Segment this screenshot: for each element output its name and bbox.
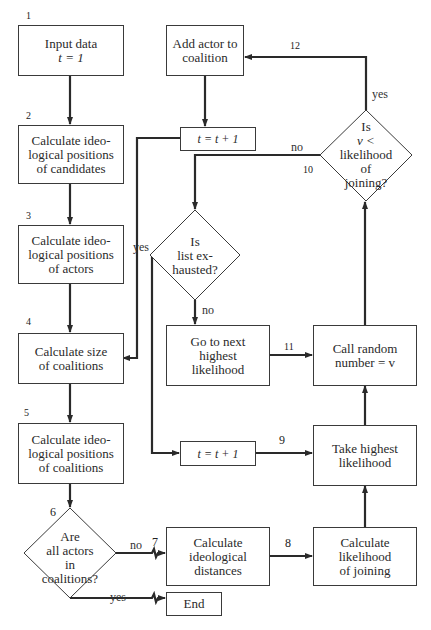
input-data-box: Input data t = 1 xyxy=(18,25,124,76)
step-number-5: 5 xyxy=(24,407,29,418)
step-number-1: 1 xyxy=(26,10,31,21)
decision-line: list ex- xyxy=(160,249,230,263)
step-number-6: 6 xyxy=(50,505,56,520)
box-line: t = t + 1 xyxy=(198,447,239,461)
box-line: Calculate ideo- xyxy=(28,134,114,148)
box-line: Take highest xyxy=(332,442,398,456)
box-line: number = v xyxy=(333,356,398,370)
box-line: logical positions xyxy=(28,148,114,162)
box-line: of coalitions xyxy=(28,461,114,475)
input-data-label: Input data xyxy=(45,37,97,51)
call-random-box: Call random number = v xyxy=(313,325,417,386)
box-line: likelihood xyxy=(332,456,398,470)
box-line: logical positions xyxy=(28,248,114,262)
decision-line: all actors xyxy=(30,544,110,558)
box-line: likelihood xyxy=(191,363,246,377)
box-line: likelihood xyxy=(339,550,392,564)
v-likelihood-decision: Is v < likelihood of joining? xyxy=(326,120,406,190)
add-actor-box: Add actor to coalition xyxy=(166,25,244,76)
t-init-label: t = 1 xyxy=(45,51,97,65)
box-line: Calculate ideo- xyxy=(28,433,114,447)
box-line: Calculate size xyxy=(35,345,108,359)
calc-likelihood-box: Calculate likelihood of joining xyxy=(313,527,417,586)
box-line: coalition xyxy=(173,51,238,65)
calc-candidates-box: Calculate ideo- logical positions of can… xyxy=(18,125,124,184)
box-line: distances xyxy=(189,564,247,578)
step-number-10: 10 xyxy=(303,164,313,175)
box-line: highest xyxy=(191,349,246,363)
decision-line: Is xyxy=(160,235,230,249)
box-line: of candidates xyxy=(28,162,114,176)
decision-line: joining? xyxy=(326,176,406,190)
list-exhausted-decision: Is list ex- hausted? xyxy=(160,235,230,277)
decision-line: of xyxy=(326,162,406,176)
box-line: Calculate ideo- xyxy=(28,234,114,248)
decision-line: hausted? xyxy=(160,263,230,277)
decision-line: in xyxy=(30,558,110,572)
step-number-12: 12 xyxy=(290,40,300,51)
calc-distances-box: Calculate ideological distances xyxy=(166,527,270,586)
all-actors-decision: Are all actors in coalitions? xyxy=(30,530,110,586)
calc-actors-box: Calculate ideo- logical positions of act… xyxy=(18,225,124,284)
step-number-4: 4 xyxy=(26,316,31,327)
box-line: logical positions xyxy=(28,447,114,461)
list-exhausted-no-label: no xyxy=(202,303,214,318)
all-actors-yes-label: yes xyxy=(110,590,126,605)
step-number-9: 9 xyxy=(279,433,285,448)
v-check-yes-label: yes xyxy=(372,87,388,102)
all-actors-no-label: no xyxy=(130,538,142,553)
decision-line: coalitions? xyxy=(30,572,110,586)
end-box: End xyxy=(166,592,222,616)
list-exhausted-yes-label: yes xyxy=(133,240,149,255)
decision-line: Is xyxy=(326,120,406,134)
decision-line: likelihood xyxy=(326,148,406,162)
box-line: Calculate xyxy=(189,536,247,550)
step-number-8: 8 xyxy=(285,536,291,551)
box-line: t = t + 1 xyxy=(198,132,239,146)
box-line: Calculate xyxy=(339,536,392,550)
box-line: of actors xyxy=(28,262,114,276)
take-highest-box: Take highest likelihood xyxy=(313,425,417,486)
step-number-3: 3 xyxy=(26,210,31,221)
v-check-no-label: no xyxy=(291,140,303,155)
box-line: End xyxy=(184,597,205,611)
box-line: Add actor to xyxy=(173,37,238,51)
calc-coalition-positions-box: Calculate ideo- logical positions of coa… xyxy=(18,423,124,484)
t-increment-bottom-box: t = t + 1 xyxy=(180,441,256,466)
box-line: of coalitions xyxy=(35,359,108,373)
t-increment-top-box: t = t + 1 xyxy=(180,127,256,151)
box-line: of joining xyxy=(339,564,392,578)
box-line: Go to next xyxy=(191,335,246,349)
next-highest-box: Go to next highest likelihood xyxy=(166,325,270,386)
box-line: ideological xyxy=(189,550,247,564)
step-number-11: 11 xyxy=(284,341,294,352)
step-number-7: 7 xyxy=(152,535,158,550)
decision-line: Are xyxy=(30,530,110,544)
decision-line: v < xyxy=(326,134,406,148)
box-line: Call random xyxy=(333,342,398,356)
step-number-2: 2 xyxy=(26,110,31,121)
calc-size-box: Calculate size of coalitions xyxy=(18,333,124,384)
